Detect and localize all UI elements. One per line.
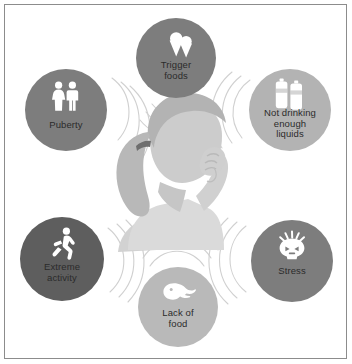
lack-of-food-circle[interactable]	[138, 267, 218, 347]
lack-of-food-node[interactable]	[138, 267, 218, 347]
stress-node[interactable]	[251, 220, 333, 302]
trigger-foods-node[interactable]	[136, 18, 216, 98]
trigger-foods-circle[interactable]	[136, 18, 216, 98]
diagram-svg	[0, 0, 352, 364]
diagram-stage	[0, 0, 352, 364]
not-drinking-enough-liquids-node[interactable]	[249, 69, 331, 151]
extreme-activity-node[interactable]	[20, 217, 104, 301]
extreme-activity-circle[interactable]	[20, 217, 104, 301]
girl-with-headache-silhouette	[116, 93, 228, 252]
puberty-circle[interactable]	[25, 69, 107, 151]
not-drinking-enough-liquids-circle[interactable]	[249, 69, 331, 151]
headache-triggers-infographic: Trigger foods Not drinking enough liquid…	[0, 0, 352, 364]
puberty-node[interactable]	[25, 69, 107, 151]
